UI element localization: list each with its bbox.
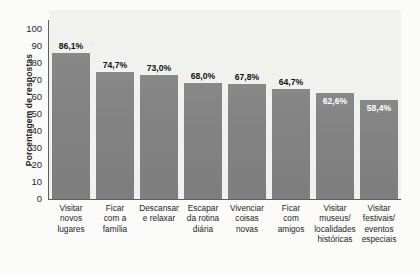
- category-label-line: especiais: [352, 234, 406, 244]
- x-axis-category-label: Visitarfestivais/eventosespeciais: [352, 203, 406, 245]
- y-axis-tick-90: 90: [31, 40, 42, 52]
- bar-series: 86,1%74,7%73,0%68,0%67,8%64,7%62,6%58,4%: [49, 10, 401, 199]
- bar-slot: 68,0%: [181, 10, 225, 199]
- y-axis-tick-labels: 1009080706050403020100: [10, 0, 42, 273]
- bar-value-label: 64,7%: [263, 77, 319, 87]
- y-axis-tick-60: 60: [31, 91, 42, 103]
- bar[interactable]: [96, 72, 134, 199]
- y-axis-tick-80: 80: [31, 57, 42, 69]
- x-axis-category-labels: VisitarnovoslugaresFicarcom afamíliaDesc…: [49, 203, 401, 273]
- bar[interactable]: [360, 100, 398, 199]
- bar-slot: 73,0%: [137, 10, 181, 199]
- y-axis-tick-50: 50: [31, 108, 42, 120]
- bar-slot: 74,7%: [93, 10, 137, 199]
- y-axis-tick-10: 10: [31, 176, 42, 188]
- bar[interactable]: [316, 93, 354, 199]
- bar-value-label: 62,6%: [315, 96, 355, 106]
- bar-slot: 86,1%: [49, 10, 93, 199]
- y-axis-tick-20: 20: [31, 159, 42, 171]
- bar-chart: Porcentagem de respostas 100908070605040…: [0, 0, 420, 273]
- plot-area: 86,1%74,7%73,0%68,0%67,8%64,7%62,6%58,4%: [49, 10, 401, 199]
- bar[interactable]: [272, 89, 310, 199]
- y-axis-tick-30: 30: [31, 142, 42, 154]
- category-label-line: eventos: [352, 224, 406, 234]
- bar-slot: 58,4%: [357, 10, 401, 199]
- bar-value-label: 58,4%: [359, 103, 399, 113]
- bar[interactable]: [184, 83, 222, 199]
- bar-slot: 67,8%: [225, 10, 269, 199]
- y-axis-tick-0: 0: [37, 193, 42, 205]
- bar-slot: 62,6%: [313, 10, 357, 199]
- bar[interactable]: [140, 75, 178, 199]
- bar[interactable]: [228, 84, 266, 199]
- category-label-line: festivais/: [352, 213, 406, 223]
- bar-slot: 64,7%: [269, 10, 313, 199]
- category-label-line: Visitar: [352, 203, 406, 213]
- category-label-line: família: [88, 224, 142, 234]
- x-axis-line: [48, 199, 401, 200]
- bar-value-label: 86,1%: [43, 41, 99, 51]
- y-axis-tick-40: 40: [31, 125, 42, 137]
- bar[interactable]: [52, 53, 90, 199]
- y-axis-tick-100: 100: [26, 23, 42, 35]
- y-axis-tick-70: 70: [31, 74, 42, 86]
